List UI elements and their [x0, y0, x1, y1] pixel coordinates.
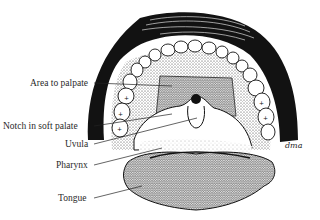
svg-text:+: +	[117, 125, 122, 132]
label-tongue: Tongue	[58, 193, 86, 203]
tongue	[124, 152, 275, 210]
label-pharynx: Pharynx	[56, 160, 88, 170]
svg-text:+: +	[259, 99, 264, 106]
label-uvula: Uvula	[65, 139, 88, 149]
label-area-to-palpate: Area to palpate	[30, 78, 88, 88]
artist-signature: dma	[285, 141, 302, 150]
label-notch-in-soft-palate: Notch in soft palate	[3, 121, 78, 131]
svg-text:+: +	[118, 110, 123, 117]
mouth-illustration: + + + + +	[0, 0, 320, 220]
oral-cavity-diagram: + + + + + Area to palpate Notch in soft …	[0, 0, 320, 220]
svg-text:+: +	[263, 114, 268, 121]
svg-text:+: +	[124, 94, 129, 101]
